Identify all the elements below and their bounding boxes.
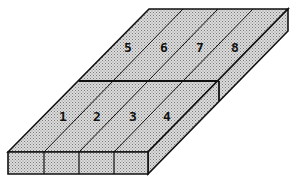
section-label-7: 7 bbox=[196, 40, 204, 55]
section-label-3: 3 bbox=[129, 109, 137, 124]
slab-diagram: 1 2 3 4 5 6 7 8 bbox=[0, 0, 299, 181]
section-label-6: 6 bbox=[160, 40, 168, 55]
section-label-8: 8 bbox=[231, 40, 239, 55]
section-label-5: 5 bbox=[124, 40, 132, 55]
section-label-4: 4 bbox=[163, 109, 171, 124]
slab-front-face bbox=[8, 152, 148, 174]
section-label-1: 1 bbox=[59, 109, 67, 124]
section-label-2: 2 bbox=[93, 109, 101, 124]
